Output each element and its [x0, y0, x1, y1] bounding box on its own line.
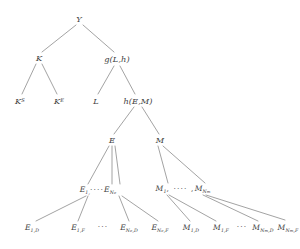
edge-root-k	[42, 25, 76, 52]
edge-e1-e1d	[36, 196, 86, 221]
edge-h-m	[142, 107, 159, 134]
leaf-e-1: E1,F	[71, 224, 85, 232]
edge-m1-m1d	[167, 195, 190, 221]
leaf-e-4: ENe,F	[151, 224, 168, 232]
leaf-ellipsis-m: ···	[237, 223, 248, 231]
leaf-m-1: M1,F	[213, 224, 229, 232]
edge-h-e	[114, 107, 134, 134]
node-k-superscript-s: KS	[15, 97, 25, 105]
edge-m1-m1f	[169, 195, 216, 221]
edge-e-elast	[115, 146, 120, 184]
edge-mnm-mnmd	[203, 195, 258, 221]
leaf-e-0: E1,D	[25, 224, 39, 232]
node-root-y: Y	[76, 15, 82, 23]
edge-k-ks	[22, 64, 36, 94]
node-m: M	[156, 136, 164, 144]
leaf-m-0: M1,D	[183, 224, 199, 232]
node-m-list: M1, ···· ,MNm	[156, 185, 211, 193]
leaf-e-3: ENe,D	[120, 224, 138, 232]
edge-k-ke	[42, 64, 57, 94]
node-h-e-m: h(E,M)	[123, 97, 152, 105]
leaf-ellipsis-e: ···	[98, 223, 109, 231]
node-k-superscript-e: KE	[54, 97, 64, 105]
leaf-m-3: MNm,D	[252, 224, 273, 232]
node-l: L	[93, 97, 99, 105]
leaf-m-4: MNm,F	[278, 224, 299, 232]
edge-e1-e1f	[78, 196, 88, 221]
edge-m-m1	[158, 146, 168, 183]
edge-g-l	[98, 66, 114, 94]
node-e-list: E1,····ENe	[80, 186, 117, 194]
tree-edges	[0, 0, 300, 249]
tree-diagram-canvas: Y K g(L,h) KS KE L h(E,M) E M E1,····ENe…	[0, 0, 300, 249]
node-e: E	[109, 136, 115, 144]
edge-mnm-mnmf	[206, 195, 285, 220]
node-k: K	[36, 54, 42, 62]
edge-root-g	[83, 25, 114, 52]
node-g-l-h: g(L,h)	[104, 55, 130, 63]
edge-g-h	[120, 66, 135, 94]
edge-m-mlast	[163, 146, 205, 183]
edge-e-e1	[88, 146, 109, 184]
